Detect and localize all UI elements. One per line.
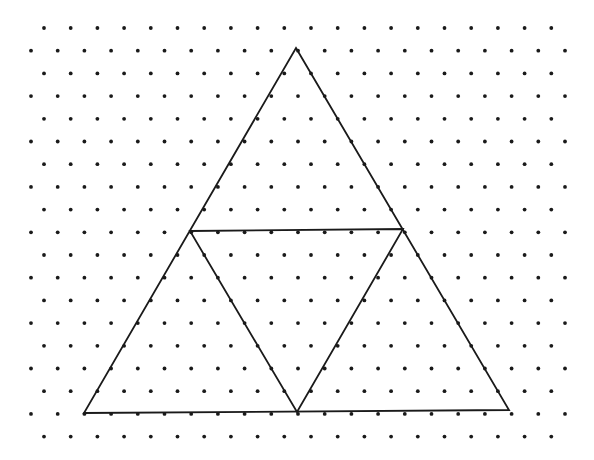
grid-dot (430, 230, 434, 234)
grid-dot (269, 94, 273, 98)
grid-dot (149, 117, 153, 121)
grid-dot (549, 162, 553, 166)
grid-dot (256, 162, 260, 166)
grid-dot (323, 140, 327, 144)
grid-dot (430, 412, 434, 416)
grid-dot (536, 94, 540, 98)
grid-dot (323, 49, 327, 53)
grid-dot (416, 117, 420, 121)
grid-dot (549, 344, 553, 348)
grid-dot (549, 389, 553, 393)
grid-dot (122, 208, 126, 212)
grid-dot (389, 26, 393, 30)
grid-dot (510, 321, 514, 325)
grid-dot (350, 367, 354, 371)
grid-dot (563, 367, 567, 371)
grid-dot (443, 162, 447, 166)
grid-dot (323, 321, 327, 325)
grid-dot (443, 72, 447, 76)
grid-dot (163, 140, 167, 144)
grid-dot (376, 140, 380, 144)
grid-dot (282, 435, 286, 439)
grid-dot (202, 435, 206, 439)
grid-dot (363, 389, 367, 393)
grid-dot (469, 389, 473, 393)
grid-dot (510, 230, 514, 234)
grid-dot (56, 321, 60, 325)
grid-dot (403, 140, 407, 144)
grid-dot (282, 117, 286, 121)
grid-dot (483, 276, 487, 280)
grid-dot (496, 208, 500, 212)
grid-dot (376, 230, 380, 234)
grid-dot (350, 49, 354, 53)
grid-dot (216, 94, 220, 98)
grid-dot (176, 26, 180, 30)
grid-dot (56, 412, 60, 416)
grid-dot (149, 208, 153, 212)
grid-dot (69, 253, 73, 257)
grid-dot (83, 140, 87, 144)
grid-dot (122, 26, 126, 30)
grid-dot (403, 276, 407, 280)
grid-dot (389, 72, 393, 76)
grid-dot (403, 94, 407, 98)
grid-dot (176, 72, 180, 76)
grid-dot (510, 140, 514, 144)
grid-dot (163, 321, 167, 325)
grid-dot (469, 117, 473, 121)
grid-dot (163, 49, 167, 53)
grid-dot (309, 435, 313, 439)
grid-dot (469, 299, 473, 303)
grid-dot (523, 208, 527, 212)
grid-dot (109, 94, 113, 98)
grid-dot (376, 94, 380, 98)
grid-dot (29, 140, 33, 144)
grid-dot (483, 140, 487, 144)
grid-dot (469, 435, 473, 439)
grid-dot (269, 140, 273, 144)
grid-dot (416, 72, 420, 76)
grid-dot (496, 435, 500, 439)
grid-dot (483, 94, 487, 98)
isometric-dot-diagram (0, 0, 594, 460)
grid-dot (109, 276, 113, 280)
grid-dot (496, 299, 500, 303)
grid-dot (549, 208, 553, 212)
grid-dot (483, 49, 487, 53)
grid-dot (83, 367, 87, 371)
grid-dot (256, 26, 260, 30)
grid-dot (523, 389, 527, 393)
grid-dot (149, 162, 153, 166)
grid-dot (443, 389, 447, 393)
grid-dot (42, 117, 46, 121)
grid-dot (510, 412, 514, 416)
grid-dot (189, 94, 193, 98)
grid-dot (403, 49, 407, 53)
grid-dot (176, 117, 180, 121)
grid-dot (83, 185, 87, 189)
grid-dot (122, 253, 126, 257)
grid-dot (202, 26, 206, 30)
grid-dot (469, 253, 473, 257)
grid-dot (536, 140, 540, 144)
grid-dot (96, 435, 100, 439)
grid-dot (323, 276, 327, 280)
grid-dot (309, 253, 313, 257)
grid-dot (29, 412, 33, 416)
grid-dot (563, 321, 567, 325)
grid-dot (336, 299, 340, 303)
grid-dot (376, 321, 380, 325)
grid-dot (29, 230, 33, 234)
grid-dot (430, 49, 434, 53)
grid-dot (376, 49, 380, 53)
grid-dot (149, 26, 153, 30)
grid-dot (350, 185, 354, 189)
grid-dot (309, 117, 313, 121)
grid-dot (229, 72, 233, 76)
grid-dot (83, 230, 87, 234)
grid-dot (323, 230, 327, 234)
grid-dot (563, 276, 567, 280)
grid-dot (416, 435, 420, 439)
grid-dot (243, 185, 247, 189)
